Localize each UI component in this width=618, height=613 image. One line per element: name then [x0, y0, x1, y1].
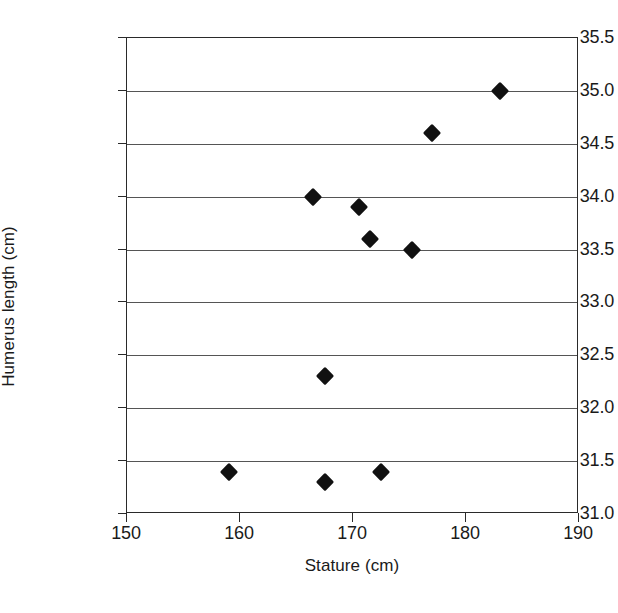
x-axis-tick [126, 513, 127, 522]
y-axis-tick [118, 196, 126, 197]
data-point-marker [372, 462, 390, 480]
x-axis-tick-label: 150 [86, 524, 166, 542]
y-axis-tick [118, 407, 126, 408]
x-axis-tick-label: 190 [538, 524, 618, 542]
x-axis-tick [239, 513, 240, 522]
y-axis-tick [118, 354, 126, 355]
y-axis-tick-label: 31.5 [510, 451, 618, 469]
data-point-marker [349, 198, 367, 216]
y-axis-tick [118, 301, 126, 302]
y-axis-tick-label: 35.0 [510, 81, 618, 99]
data-point-marker [316, 473, 334, 491]
y-axis-tick [118, 90, 126, 91]
data-point-marker [361, 230, 379, 248]
data-point-marker [316, 367, 334, 385]
y-axis-tick [118, 513, 126, 514]
plot-area [126, 37, 578, 513]
data-point-marker [423, 124, 441, 142]
x-axis-tick [465, 513, 466, 522]
y-axis-tick [118, 37, 126, 38]
x-axis-title: Stature (cm) [126, 556, 578, 576]
y-axis-title-text: Humerus length (cm) [0, 226, 19, 387]
y-axis-tick [118, 249, 126, 250]
y-axis-tick [118, 143, 126, 144]
x-axis-tick-label: 170 [312, 524, 392, 542]
data-point-marker [304, 187, 322, 205]
y-axis-tick-label: 32.0 [510, 398, 618, 416]
data-point-marker [491, 82, 509, 100]
data-point-marker [403, 240, 421, 258]
y-axis-tick-label: 34.5 [510, 134, 618, 152]
data-point-marker [219, 462, 237, 480]
y-axis-tick-label: 33.0 [510, 292, 618, 310]
y-axis-tick-label: 33.5 [510, 240, 618, 258]
y-axis-tick-label: 32.5 [510, 345, 618, 363]
y-axis-tick-label: 35.5 [510, 28, 618, 46]
scatter-plot-figure: Humerus length (cm) Stature (cm) 31.031.… [0, 0, 618, 613]
x-axis-tick [352, 513, 353, 522]
x-axis-tick [578, 513, 579, 522]
y-axis-tick-label: 34.0 [510, 187, 618, 205]
y-axis-tick [118, 460, 126, 461]
x-axis-tick-label: 160 [199, 524, 279, 542]
y-axis-tick-label: 31.0 [510, 504, 618, 522]
x-axis-tick-label: 180 [425, 524, 505, 542]
y-axis-title: Humerus length (cm) [46, 0, 92, 613]
